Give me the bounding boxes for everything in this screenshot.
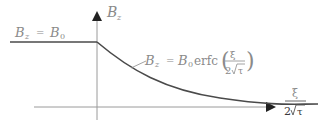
left-region-label: B z = B 0 xyxy=(14,25,65,41)
svg-text:erfc: erfc xyxy=(194,54,218,68)
svg-text:0: 0 xyxy=(60,32,65,41)
svg-text:z: z xyxy=(24,32,30,41)
svg-text:B: B xyxy=(144,53,155,68)
x-axis-label: ξ 2 τ xyxy=(284,87,306,118)
svg-text:2: 2 xyxy=(284,105,291,118)
svg-text:τ: τ xyxy=(238,66,243,76)
erfc-curve xyxy=(97,42,318,104)
svg-text:B: B xyxy=(106,4,117,20)
svg-text:ξ: ξ xyxy=(292,87,298,100)
svg-text:B: B xyxy=(49,25,60,40)
svg-text:2: 2 xyxy=(225,65,231,76)
svg-text:B: B xyxy=(177,53,188,68)
y-axis-label: B z xyxy=(106,4,122,22)
diagram-canvas: B z B z = B 0 B z = B 0 erfc ( ξ 2 τ ) ξ… xyxy=(0,0,321,123)
svg-text:=: = xyxy=(166,55,174,66)
svg-text:): ) xyxy=(246,48,255,73)
y-axis-arrow-icon xyxy=(92,11,102,21)
svg-text:B: B xyxy=(14,25,25,40)
svg-text:ξ: ξ xyxy=(230,49,236,60)
curve-leader-line xyxy=(131,61,146,68)
svg-text:z: z xyxy=(116,13,122,22)
curve-formula-label: B z = B 0 erfc ( ξ 2 τ ) xyxy=(144,48,255,76)
svg-text:0: 0 xyxy=(188,60,193,69)
svg-text:τ: τ xyxy=(297,106,303,117)
svg-text:=: = xyxy=(36,27,44,38)
svg-text:z: z xyxy=(154,60,160,69)
